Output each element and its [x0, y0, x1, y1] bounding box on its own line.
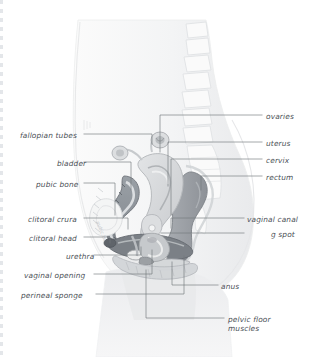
- cervical-os: [149, 225, 155, 231]
- vertebra: [186, 22, 208, 38]
- label-ovaries: ovaries: [266, 113, 294, 122]
- vertebra: [182, 108, 212, 126]
- label-bladder: bladder: [57, 160, 86, 169]
- label-pelvic-floor-muscles-line2: muscles: [228, 324, 259, 333]
- vertebra: [182, 90, 211, 108]
- label-pelvic-floor-muscles: pelvic floor muscles: [228, 316, 298, 333]
- label-perineal-sponge: perineal sponge: [21, 292, 83, 301]
- vertebra: [186, 38, 210, 55]
- label-vaginal-canal: vaginal canal: [247, 216, 298, 225]
- vertebra: [184, 55, 211, 72]
- label-rectum: rectum: [266, 174, 293, 183]
- label-anus: anus: [221, 283, 239, 292]
- label-g-spot: g spot: [271, 231, 295, 240]
- label-uterus: uterus: [266, 140, 291, 149]
- label-pubic-bone: pubic bone: [36, 181, 78, 190]
- vertebra: [183, 72, 211, 90]
- label-cervix: cervix: [266, 157, 289, 166]
- label-fallopian-tubes: fallopian tubes: [20, 132, 77, 141]
- vertebra: [183, 126, 213, 144]
- g-spot-marker: [147, 237, 157, 243]
- label-clitoral-head: clitoral head: [29, 235, 77, 244]
- label-vaginal-opening: vaginal opening: [24, 272, 85, 281]
- label-clitoral-crura: clitoral crura: [28, 216, 77, 225]
- diagram-root: pubic bone: [0, 0, 313, 357]
- ovary-left: [112, 146, 128, 160]
- label-urethra: urethra: [66, 253, 94, 262]
